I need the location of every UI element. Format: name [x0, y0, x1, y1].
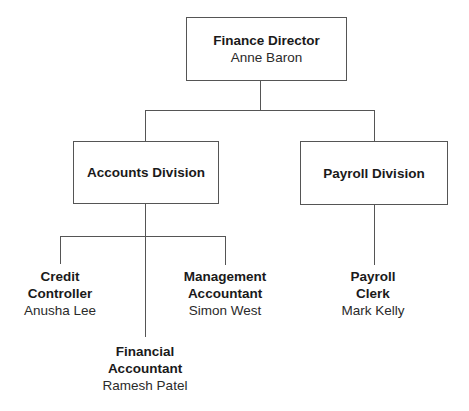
payroll-clerk-title-line1: Payroll	[303, 268, 443, 285]
payroll-clerk-node: Payroll Clerk Mark Kelly	[303, 268, 443, 319]
accounts-division-box: Accounts Division	[73, 141, 219, 204]
connector-to-credit-controller	[60, 236, 61, 264]
payroll-clerk-name: Mark Kelly	[303, 302, 443, 319]
payroll-division-box: Payroll Division	[300, 141, 448, 205]
finance-director-box: Finance Director Anne Baron	[186, 17, 347, 81]
credit-controller-title-line2: Controller	[0, 285, 130, 302]
connector-to-accounts	[145, 110, 146, 141]
payroll-clerk-title-line2: Clerk	[303, 285, 443, 302]
connector-payroll-down	[374, 204, 375, 265]
connector-divisions-horizontal	[145, 110, 375, 111]
connector-director-down	[260, 80, 261, 111]
financial-accountant-title-line1: Financial	[75, 343, 215, 360]
connector-accounts-down	[145, 203, 146, 337]
management-accountant-title-line2: Accountant	[155, 285, 295, 302]
management-accountant-node: Management Accountant Simon West	[155, 268, 295, 319]
financial-accountant-node: Financial Accountant Ramesh Patel	[75, 343, 215, 394]
finance-director-title: Finance Director	[213, 32, 320, 49]
credit-controller-node: Credit Controller Anusha Lee	[0, 268, 130, 319]
management-accountant-title-line1: Management	[155, 268, 295, 285]
credit-controller-title-line1: Credit	[0, 268, 130, 285]
management-accountant-name: Simon West	[155, 302, 295, 319]
financial-accountant-title-line2: Accountant	[75, 360, 215, 377]
connector-to-management-accountant	[225, 236, 226, 265]
connector-to-payroll	[374, 110, 375, 141]
finance-director-name: Anne Baron	[231, 49, 302, 66]
accounts-division-title: Accounts Division	[87, 164, 205, 181]
financial-accountant-name: Ramesh Patel	[75, 377, 215, 394]
payroll-division-title: Payroll Division	[323, 165, 424, 182]
connector-accounts-branch	[60, 236, 226, 237]
credit-controller-name: Anusha Lee	[0, 302, 130, 319]
